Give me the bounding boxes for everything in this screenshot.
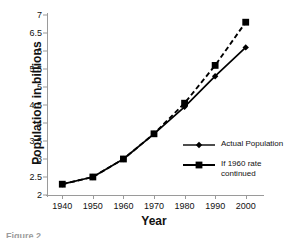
y-tick-label: 4 — [37, 118, 42, 128]
y-tick-label: 3.5 — [29, 136, 42, 146]
x-tick-label: 1950 — [83, 201, 103, 211]
diamond-marker — [196, 142, 202, 148]
population-growth-chart: Population in billions 22.533.544.555.56… — [0, 0, 299, 238]
y-tick-label: 4.5 — [29, 100, 42, 110]
chart-legend: Actual PopulationIf 1960 rate continued — [182, 139, 283, 187]
y-tick-label: 2.5 — [29, 172, 42, 182]
x-axis-line — [46, 195, 264, 196]
square-marker — [196, 162, 203, 169]
legend-label: Actual Population — [221, 139, 283, 149]
x-tick-label: 1940 — [52, 201, 72, 211]
legend-item: Actual Population — [182, 139, 283, 150]
x-tick-mark — [62, 195, 63, 199]
square-marker — [212, 62, 219, 69]
y-tick-label: 6 — [37, 46, 42, 56]
x-tick-label: 1970 — [144, 201, 164, 211]
y-tick-label: 2 — [37, 190, 42, 200]
legend-item: If 1960 rate continued — [182, 159, 283, 178]
legend-key — [182, 140, 216, 150]
x-tick-label: 1960 — [113, 201, 133, 211]
y-tick-label: 5.5 — [29, 64, 42, 74]
x-axis-title: Year — [47, 214, 261, 228]
figure-caption: Figure 2 — [6, 231, 41, 238]
x-tick-mark — [154, 195, 155, 199]
x-tick-label: 1980 — [175, 201, 195, 211]
x-tick-mark — [93, 195, 94, 199]
x-tick-mark — [185, 195, 186, 199]
y-tick-label: 7 — [37, 10, 42, 20]
x-tick-mark — [246, 195, 247, 199]
square-marker — [242, 19, 249, 26]
y-tick-label: 6.5 — [29, 28, 42, 38]
y-tick-label: 5 — [37, 82, 42, 92]
legend-label: If 1960 rate continued — [221, 159, 261, 178]
x-tick-mark — [215, 195, 216, 199]
y-tick-label: 3 — [37, 154, 42, 164]
legend-key — [182, 160, 216, 170]
x-tick-label: 2000 — [236, 201, 256, 211]
x-tick-mark — [123, 195, 124, 199]
x-tick-label: 1990 — [205, 201, 225, 211]
